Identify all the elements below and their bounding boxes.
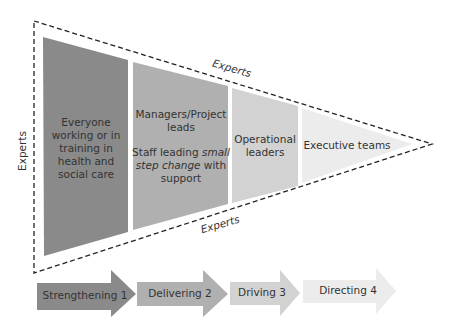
panel-text-line: training in — [44, 142, 128, 155]
panel-text-line: step change with — [131, 159, 231, 172]
panel-text-line: leads — [131, 121, 231, 134]
panel-text-line: social care — [44, 168, 128, 181]
panel-text-emphasis: step change — [136, 159, 201, 171]
panel-text-line: Operational — [230, 133, 300, 146]
panel-text-span: with — [201, 159, 227, 171]
experts-label-left: Experts — [16, 131, 28, 171]
panel-delivering-text: Managers/Project leads Staff leading sma… — [131, 108, 231, 185]
panel-text-line: Everyone — [44, 116, 128, 129]
panel-text-line: support — [131, 172, 231, 185]
arrow-label-delivering: Delivering 2 — [140, 287, 220, 299]
panel-strengthening-text: Everyone working or in training in healt… — [44, 116, 128, 181]
arrow-label-directing: Directing 4 — [308, 284, 388, 296]
panel-text-emphasis: small — [202, 146, 230, 158]
arrow-label-driving: Driving 3 — [232, 286, 292, 298]
panel-directing-text: Executive teams — [302, 139, 392, 152]
panel-text-line: Staff leading small — [131, 146, 231, 159]
arrow-label-strengthening: Strengthening 1 — [40, 289, 130, 301]
panel-text-line: leaders — [230, 146, 300, 159]
panel-text-line: Executive teams — [302, 139, 392, 152]
panel-driving-text: Operational leaders — [230, 133, 300, 159]
panel-text-line: Managers/Project — [131, 108, 231, 121]
panel-text-line: working or in — [44, 129, 128, 142]
panel-text-line: health and — [44, 155, 128, 168]
panel-text-span: Staff leading — [132, 146, 202, 158]
